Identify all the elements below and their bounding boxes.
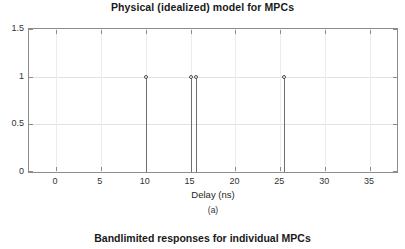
gridline-vertical — [56, 29, 57, 172]
next-figure-title: Bandlimited responses for individual MPC… — [0, 232, 405, 244]
stem-line — [191, 77, 192, 172]
y-axis-tick — [29, 124, 33, 125]
gridline-horizontal — [29, 77, 397, 78]
y-axis-tick-right — [393, 124, 397, 125]
x-axis-tick — [280, 167, 281, 171]
x-axis-tick-top — [146, 30, 147, 34]
x-axis-tick — [235, 167, 236, 171]
x-axis-tick-top — [280, 30, 281, 34]
x-axis-tick — [325, 167, 326, 171]
y-tick-label: 1 — [0, 71, 24, 81]
stem-line — [146, 77, 147, 172]
figure-panel-a: Physical (idealized) model for MPCs 0510… — [0, 0, 405, 224]
gridline-vertical — [370, 29, 371, 172]
y-axis-tick — [29, 77, 33, 78]
stem-marker — [144, 75, 148, 79]
x-tick-label: 20 — [229, 176, 239, 186]
y-axis-tick-right — [393, 171, 397, 172]
stem-marker — [194, 75, 198, 79]
gridline-horizontal — [29, 124, 397, 125]
x-axis-tick-top — [235, 30, 236, 34]
x-axis-tick — [101, 167, 102, 171]
gridline-vertical — [325, 29, 326, 172]
x-axis-tick — [370, 167, 371, 171]
x-tick-label: 15 — [185, 176, 195, 186]
gridline-vertical — [101, 29, 102, 172]
y-axis-tick — [29, 171, 33, 172]
x-axis-tick-top — [101, 30, 102, 34]
y-tick-label: 0.5 — [0, 118, 24, 128]
x-axis-tick-top — [370, 30, 371, 34]
y-axis-tick — [29, 29, 33, 30]
plot-area — [28, 28, 398, 173]
x-tick-label: 35 — [364, 176, 374, 186]
x-axis-tick-top — [191, 30, 192, 34]
stem-line — [196, 77, 197, 172]
x-axis-tick-top — [325, 30, 326, 34]
x-axis-tick — [56, 167, 57, 171]
x-axis-label: Delay (ns) — [28, 189, 398, 200]
gridline-vertical — [280, 29, 281, 172]
y-axis-tick-right — [393, 29, 397, 30]
subfigure-caption-a: (a) — [28, 205, 398, 215]
stem-marker — [282, 75, 286, 79]
x-axis-tick-top — [56, 30, 57, 34]
stem-line — [284, 77, 285, 172]
chart-title: Physical (idealized) model for MPCs — [0, 1, 405, 13]
x-tick-label: 0 — [52, 176, 57, 186]
y-axis-tick-right — [393, 77, 397, 78]
x-tick-label: 5 — [97, 176, 102, 186]
y-tick-label: 1.5 — [0, 23, 24, 33]
x-tick-label: 25 — [274, 176, 284, 186]
x-tick-label: 10 — [140, 176, 150, 186]
stem-marker — [189, 75, 193, 79]
y-tick-label: 0 — [0, 166, 24, 176]
x-tick-label: 30 — [319, 176, 329, 186]
gridline-vertical — [235, 29, 236, 172]
